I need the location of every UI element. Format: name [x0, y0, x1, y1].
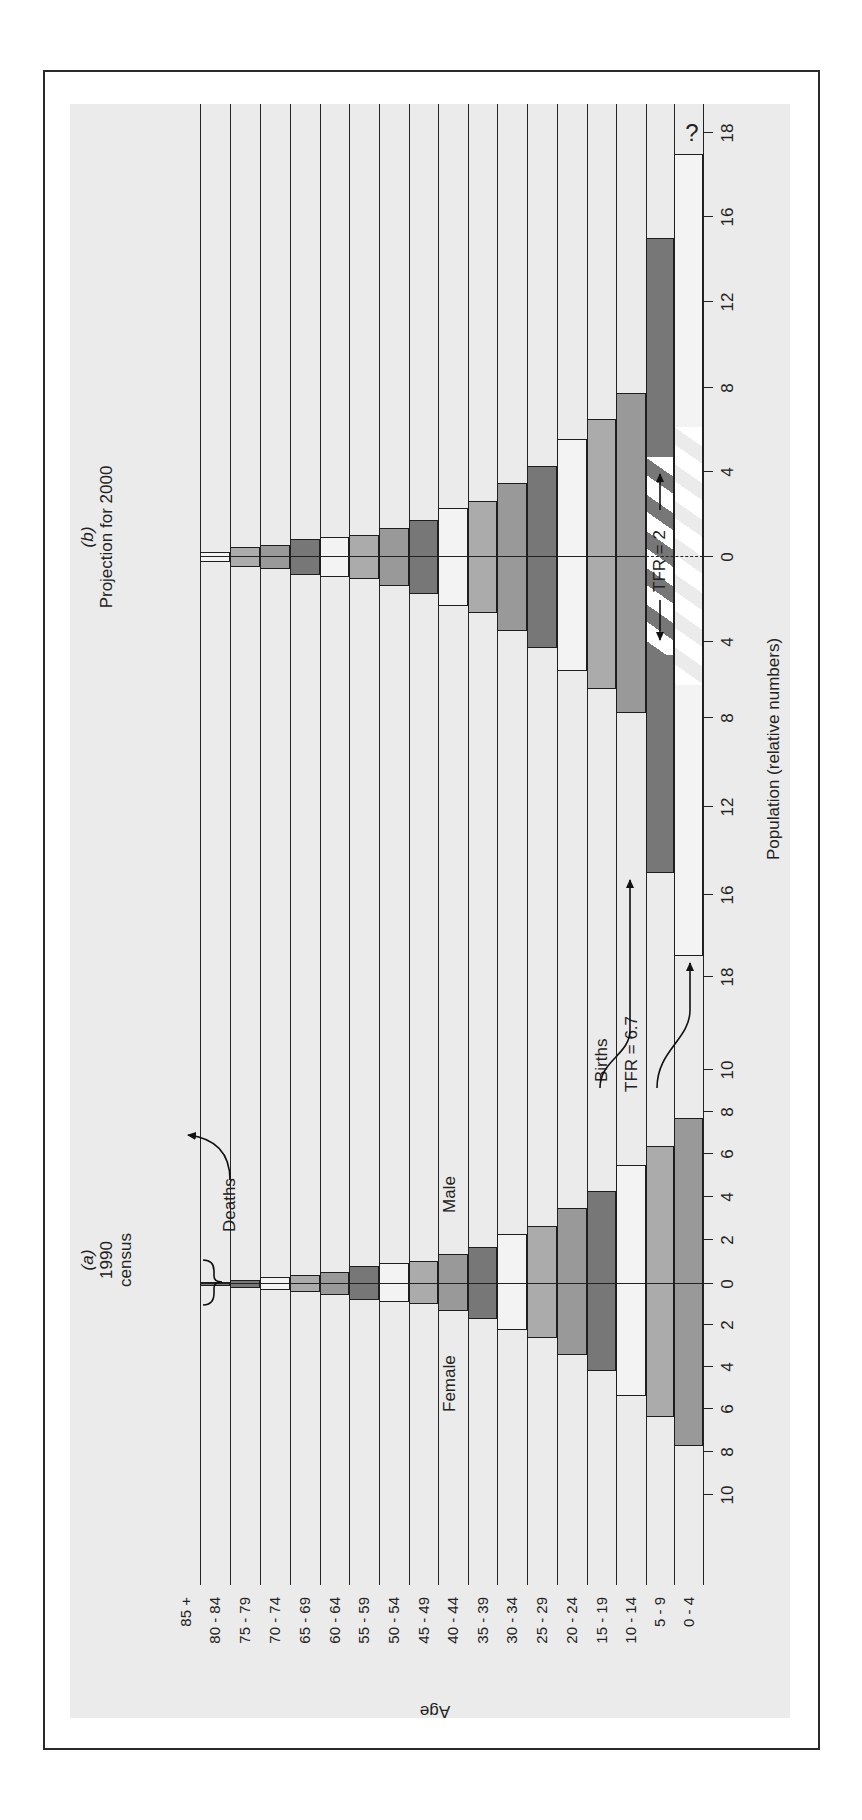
deaths-brace — [203, 1260, 222, 1305]
pyramid-figure: 85 +80 - 8475 - 7970 - 7465 - 6960 - 645… — [0, 0, 862, 1820]
deaths-arrow — [188, 1135, 230, 1180]
annotation-arrows — [0, 0, 862, 1820]
births-arrow-2 — [657, 963, 690, 1088]
births-arrow-1 — [600, 880, 630, 1088]
